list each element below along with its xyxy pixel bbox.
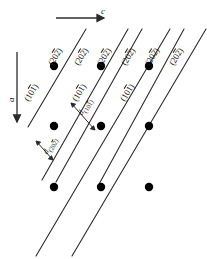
lattice-point bbox=[97, 122, 105, 130]
lattice-point bbox=[145, 183, 153, 191]
lattice-planes-figure: c a (202) (202) (202) (202) (202) (202) … bbox=[0, 0, 207, 259]
a-axis-arrow bbox=[14, 52, 21, 122]
c-axis-arrow bbox=[56, 15, 104, 22]
plane-line-6 bbox=[72, 29, 206, 256]
c-axis-label: c bbox=[101, 6, 105, 16]
figure-canvas bbox=[0, 0, 207, 259]
lattice-point bbox=[145, 122, 153, 130]
a-axis-label: a bbox=[6, 98, 16, 103]
lattice-point bbox=[50, 122, 58, 130]
lattice-points bbox=[50, 62, 153, 191]
lattice-point bbox=[97, 183, 105, 191]
lattice-point bbox=[50, 183, 58, 191]
